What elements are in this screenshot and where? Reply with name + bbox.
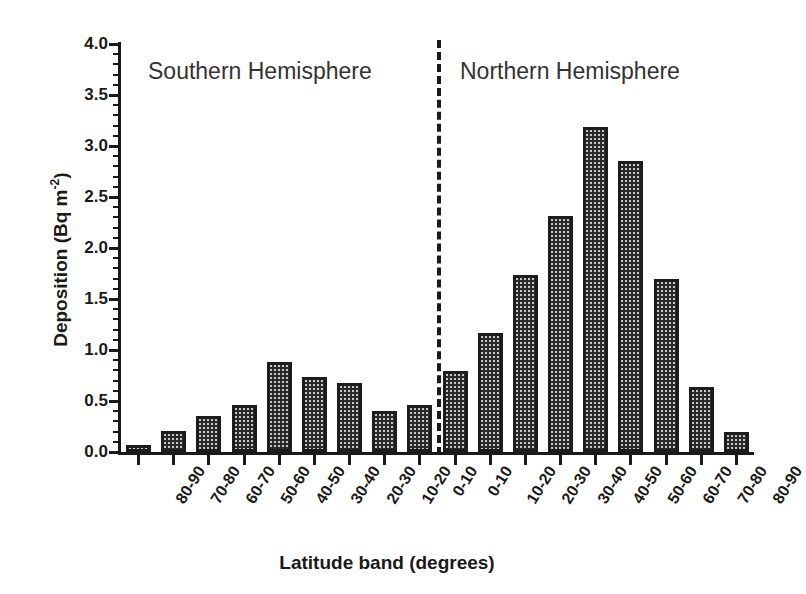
y-axis-minor-tick <box>113 257 118 259</box>
bar <box>302 377 327 452</box>
y-axis-major-tick <box>109 43 118 46</box>
bar <box>724 432 749 452</box>
x-axis-tick-label: 60-70 <box>699 463 736 507</box>
x-axis-tick-label: 0-10 <box>449 463 481 500</box>
y-axis-minor-tick <box>113 369 118 371</box>
y-axis-minor-tick <box>113 267 118 269</box>
bar <box>267 362 292 452</box>
y-axis-minor-tick <box>113 390 118 392</box>
y-axis-major-tick <box>109 400 118 403</box>
x-axis-tick-label: 10-20 <box>523 463 560 507</box>
bar <box>126 445 151 452</box>
southern-hemisphere-caption: Southern Hemisphere <box>148 58 372 85</box>
y-axis-minor-tick <box>113 176 118 178</box>
bar <box>161 431 186 452</box>
x-axis-tick-label: 70-80 <box>207 463 244 507</box>
y-axis-minor-tick <box>113 308 118 310</box>
x-axis-tick-label: 50-60 <box>277 463 314 507</box>
y-axis-tick-labels: 0.00.51.01.52.02.53.03.54.0 <box>58 44 108 452</box>
y-axis-tick-label: 3.0 <box>84 136 108 156</box>
bar <box>548 216 573 452</box>
y-axis-minor-tick <box>113 441 118 443</box>
x-axis-tick-labels: 80-9070-8060-7050-6040-5030-4020-3010-20… <box>0 455 774 540</box>
x-axis-tick-label: 70-80 <box>734 463 771 507</box>
y-axis-minor-tick <box>113 380 118 382</box>
bar <box>478 333 503 452</box>
y-axis-minor-tick <box>113 237 118 239</box>
y-axis-minor-tick <box>113 155 118 157</box>
x-axis-tick-label: 80-90 <box>770 463 806 507</box>
y-axis-minor-tick <box>113 359 118 361</box>
x-axis-tick-label: 40-50 <box>312 463 349 507</box>
y-axis-minor-tick <box>113 227 118 229</box>
bar <box>196 416 221 452</box>
y-axis-tick-label: 1.0 <box>84 340 108 360</box>
y-axis-minor-tick <box>113 125 118 127</box>
x-axis-tick-label: 50-60 <box>664 463 701 507</box>
bar <box>407 405 432 452</box>
y-axis-minor-tick <box>113 278 118 280</box>
bar <box>443 371 468 452</box>
y-axis-minor-tick <box>113 206 118 208</box>
y-axis-major-tick <box>109 451 118 454</box>
y-axis-tick-label: 2.0 <box>84 238 108 258</box>
bar <box>232 405 257 452</box>
x-axis-tick-label: 10-20 <box>418 463 455 507</box>
y-axis-minor-tick <box>113 135 118 137</box>
y-axis-minor-tick <box>113 329 118 331</box>
y-axis-minor-tick <box>113 165 118 167</box>
y-axis-minor-tick <box>113 186 118 188</box>
y-axis-minor-tick <box>113 84 118 86</box>
x-axis-tick-label: 20-30 <box>559 463 596 507</box>
northern-hemisphere-caption: Northern Hemisphere <box>460 58 680 85</box>
y-axis-major-tick <box>109 349 118 352</box>
y-axis-minor-tick <box>113 288 118 290</box>
y-axis-major-tick <box>109 298 118 301</box>
x-axis-tick-label: 0-10 <box>484 463 516 500</box>
y-axis-minor-tick <box>113 114 118 116</box>
hemisphere-divider-line <box>437 40 441 455</box>
y-axis-tick-label: 1.5 <box>84 289 108 309</box>
x-axis-tick-label: 80-90 <box>172 463 209 507</box>
x-axis-tick-label: 40-50 <box>629 463 666 507</box>
y-axis-tick-label: 2.5 <box>84 187 108 207</box>
y-axis-minor-tick <box>113 318 118 320</box>
y-axis-major-tick <box>109 247 118 250</box>
bar <box>372 411 397 452</box>
bar <box>654 279 679 452</box>
bar <box>513 275 538 452</box>
bar <box>689 387 714 452</box>
y-axis-minor-tick <box>113 339 118 341</box>
y-axis-minor-tick <box>113 431 118 433</box>
y-axis-minor-tick <box>113 410 118 412</box>
x-axis-tick-label: 30-40 <box>348 463 385 507</box>
y-axis-minor-tick <box>113 216 118 218</box>
y-axis-tick-label: 0.5 <box>84 391 108 411</box>
y-axis-minor-tick <box>113 63 118 65</box>
y-axis-minor-tick <box>113 104 118 106</box>
x-axis-tick-label: 60-70 <box>242 463 279 507</box>
y-axis-minor-tick <box>113 74 118 76</box>
bar <box>583 127 608 452</box>
y-axis-tick-label: 4.0 <box>84 34 108 54</box>
y-axis-major-tick <box>109 94 118 97</box>
x-axis-tick-label: 30-40 <box>594 463 631 507</box>
y-axis-minor-tick <box>113 53 118 55</box>
bar <box>618 161 643 452</box>
y-axis-major-tick <box>109 196 118 199</box>
x-axis-title: Latitude band (degrees) <box>0 552 774 574</box>
y-axis-minor-tick <box>113 420 118 422</box>
y-axis-major-tick <box>109 145 118 148</box>
x-axis-tick-label: 20-30 <box>383 463 420 507</box>
bar <box>337 383 362 452</box>
y-axis-tick-label: 3.5 <box>84 85 108 105</box>
